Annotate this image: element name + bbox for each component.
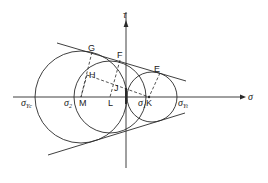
label-F: F (117, 50, 123, 60)
label-E: E (154, 64, 160, 74)
label-sigma-2: σ2 (64, 97, 72, 109)
label-G: G (88, 43, 95, 53)
label-sigma-yt: σYt (178, 97, 188, 109)
lower-tangent-line (48, 113, 185, 155)
label-sigma-axis: σ (248, 91, 254, 102)
label-sigma-1: σ1 (138, 97, 146, 109)
label-J: J (114, 83, 119, 93)
mohr-circle-diagram: G F E H J M L K σYc σ2 σ1 σYt σ τ (0, 0, 268, 183)
dashed-line-E-K (149, 73, 160, 97)
label-sigma-yc: σYc (21, 97, 32, 109)
diagram-svg: G F E H J M L K σYc σ2 σ1 σYt σ τ (0, 0, 268, 183)
label-L: L (108, 98, 113, 108)
label-tau-axis: τ (123, 9, 127, 20)
label-K: K (146, 98, 152, 108)
label-M: M (79, 98, 87, 108)
tau-axis-arrow-icon (124, 20, 129, 27)
point-dot-J (125, 89, 127, 91)
label-H: H (89, 70, 96, 80)
sigma-axis-arrow-icon (240, 95, 246, 100)
